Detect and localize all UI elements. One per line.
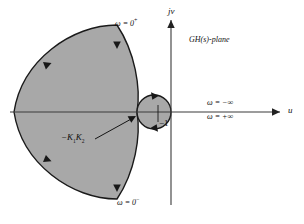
label-real-axis: u (288, 106, 293, 115)
label-gh-plane: GH(s)-plane (189, 36, 229, 44)
nyquist-diagram (0, 0, 304, 224)
label-omega-plus-infinity: ω = +∞ (207, 113, 233, 121)
label-critical-point: −1 (159, 119, 169, 128)
label-omega-zero-minus: ω = 0− (117, 196, 139, 207)
label-omega-zero-plus: ω = 0+ (115, 17, 137, 28)
label-gain-point: −K1K2 (61, 133, 85, 144)
label-omega-minus-infinity: ω = −∞ (207, 99, 233, 107)
label-imaginary-axis: jν (168, 7, 175, 16)
